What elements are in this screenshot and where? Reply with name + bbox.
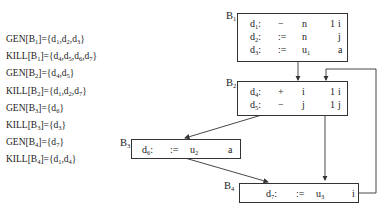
result: j [338,99,341,110]
arg1: u3 [316,188,324,200]
def: d3: [250,44,261,56]
arg1: n [302,18,307,29]
def: d7: [266,188,277,200]
def: d4: [250,86,261,98]
result: j [338,31,341,42]
block-label-b3: B3 [120,137,130,149]
op: := [278,31,286,42]
result: i [338,18,341,29]
block-b4: d7::=u3i [239,183,359,203]
arg2: 1 [330,99,335,110]
arg1: u2 [190,144,198,156]
op: + [278,86,284,97]
block-b3: d6::=u2a [131,139,241,159]
block-b1: d1:−n1id2::=njd3::=u1a [237,13,348,62]
block-label-b2: B2 [226,77,236,89]
result: i [338,86,341,97]
def: d2: [250,31,261,43]
arg1: j [302,99,305,110]
arg1: u1 [302,44,310,56]
op: − [278,99,284,110]
def: d1: [250,18,261,30]
block-label-b1: B1 [226,10,236,22]
op: := [278,44,286,55]
arg2: 1 [330,18,335,29]
block-b2: d4:+i1id5:−j1j [237,81,348,116]
result: i [352,188,355,199]
op: − [278,18,284,29]
result: a [228,144,232,155]
def: d6: [142,144,153,156]
arg1: i [302,86,305,97]
result: a [338,44,342,55]
arg2: 1 [330,86,335,97]
op: := [296,188,304,199]
def: d5: [250,99,261,111]
block-label-b4: B4 [224,180,234,192]
op: := [170,144,178,155]
arg1: n [302,31,307,42]
